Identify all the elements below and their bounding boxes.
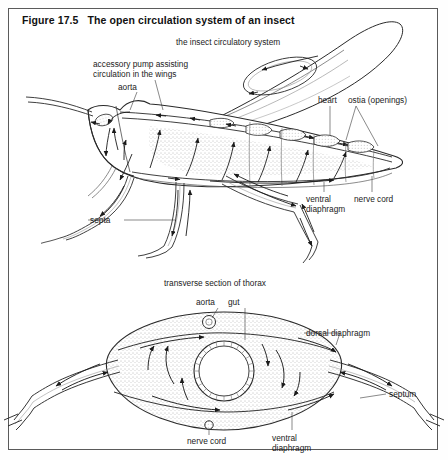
gut-label: gut — [228, 297, 240, 307]
bottom-panel-caption: transverse section of thorax — [164, 278, 267, 288]
nerve-cord-label-top: nerve cord — [354, 194, 394, 204]
figure-root: Figure 17.5 The open circulation system … — [0, 0, 448, 460]
front-leg-stub — [88, 166, 116, 198]
heart-label: heart — [318, 95, 338, 105]
top-panel: the insect circulatory system accessory … — [26, 22, 407, 263]
antenna — [26, 97, 92, 112]
ventral-diaphragm-label-top-line1: ventral — [306, 194, 331, 204]
accessory-pump-label-line1: accessory pump assisting — [93, 59, 188, 69]
top-panel-caption: the insect circulatory system — [176, 37, 280, 47]
septa-label: septa — [90, 215, 111, 225]
bottom-panel: transverse section of thorax aorta gut d… — [4, 278, 444, 453]
dorsal-diaphragm-label: dorsal diaphragm — [306, 328, 370, 338]
ventral-diaphragm-label-bottom-line1: ventral — [272, 433, 297, 443]
nerve-cord-label-bottom: nerve cord — [187, 436, 227, 446]
aorta-vessel-bottom — [203, 316, 216, 329]
septum-label: septum — [389, 389, 416, 399]
ventral-diaphragm-label-top-line2: diaphragm — [306, 204, 345, 214]
ostia-label: ostia (openings) — [348, 95, 407, 105]
accessory-pump-label-line2: circulation in the wings — [93, 69, 176, 79]
left-leg-section — [4, 360, 120, 430]
insect-circulation-diagram: the insect circulatory system accessory … — [0, 0, 448, 460]
ventral-diaphragm-label-bottom-line2: diaphragm — [272, 443, 311, 453]
gut — [194, 341, 254, 401]
nerve-cord-dot — [205, 421, 213, 429]
foreleg — [41, 176, 134, 243]
right-leg-section — [328, 360, 444, 430]
aorta-label-top: aorta — [118, 82, 137, 92]
aorta-label-bottom: aorta — [196, 297, 215, 307]
